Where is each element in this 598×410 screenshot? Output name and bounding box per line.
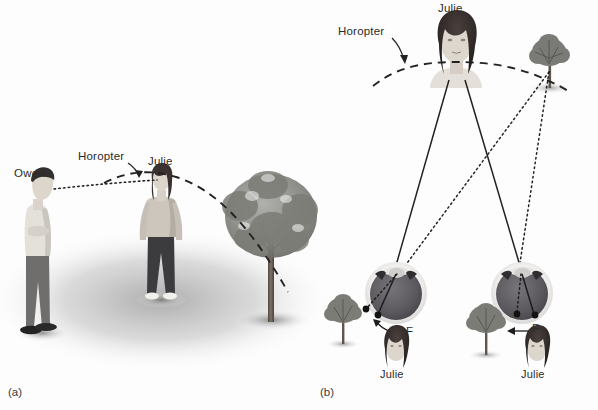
label-horopter-a: Horopter [78,150,124,162]
panel-b-graphics [318,0,598,410]
julie-neck [157,190,166,201]
panel-tag-b: (b) [320,386,334,398]
label-julie-b-top: Julie [438,2,463,14]
panel-a: Owen Horopter Julie (a) [0,0,330,410]
label-julie-a: Julie [148,155,173,167]
panel-b: Julie Horopter F F Julie Julie (b) [318,0,598,410]
tree-b-trunk [549,64,552,88]
ray-tree-to-right-eye [518,72,549,276]
right-eye-retinal-point-julie [532,312,539,319]
julie-shadow [135,292,187,308]
label-fovea-right: F [532,322,539,334]
right-eye-retinal-point-tree [514,311,521,318]
fovea-arrowhead-right [507,327,515,335]
julie-shoe-right [163,293,177,300]
julie-shoe-left [145,293,159,300]
ray-julie-to-right-eye [465,80,523,276]
fixation-target-julie-head [430,10,482,88]
tree-b-canopy [529,34,570,66]
panel-tag-a: (a) [8,386,22,398]
panel-a-graphics [0,0,330,410]
peripheral-target-tree [528,34,572,94]
ray-julie-to-left-eye [393,80,449,276]
left-eye-retinal-image-tree [324,294,362,349]
left-eye-retinal-point-tree [363,306,370,313]
horopter-arrowhead-a [135,170,143,178]
horopter-arrowhead-b [400,55,408,64]
right-inset-tree-trunk [485,332,487,355]
left-eye [363,262,427,324]
owen-neck [33,199,43,210]
label-julie-inset-right: Julie [521,368,545,380]
left-inset-tree-trunk [342,322,344,344]
label-fovea-left: F [406,325,413,337]
figure-root: Owen Horopter Julie (a) [0,0,598,410]
label-julie-inset-left: Julie [380,368,404,380]
label-horopter-b: Horopter [338,25,384,37]
label-owen: Owen [14,167,45,179]
left-eye-retinal-point-julie [375,312,382,319]
right-eye-retinal-image-tree [466,303,506,360]
owen-shoe-front [35,323,57,331]
left-eye-lens [389,268,405,278]
